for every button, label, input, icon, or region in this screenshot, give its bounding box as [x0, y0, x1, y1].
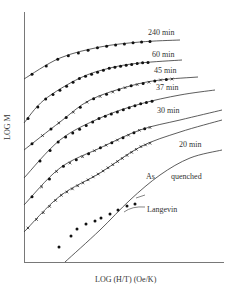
label-37-min: 37 min: [156, 83, 178, 92]
data-point: [109, 213, 112, 216]
data-point: [99, 146, 102, 149]
data-point: [44, 97, 47, 100]
x-axis-label: LOG (H/T) (Oe/K): [95, 275, 156, 284]
data-point: [116, 110, 119, 113]
label-langevin: Langevin: [147, 205, 177, 214]
data-point: [133, 104, 136, 107]
data-point: [78, 128, 81, 131]
label-quenched: quenched: [171, 172, 202, 181]
data-point: [67, 54, 70, 57]
data-point: [165, 78, 168, 81]
data-point: [58, 246, 61, 249]
data-point: [100, 217, 103, 220]
data-point: [72, 81, 75, 84]
data-point: [143, 127, 146, 130]
data-point: [114, 44, 117, 47]
data-point: [134, 203, 137, 206]
data-point-cross: [41, 134, 44, 137]
data-point: [125, 64, 128, 67]
data-point: [31, 142, 34, 145]
data-point: [76, 228, 79, 231]
curve-37-min: [24, 90, 215, 178]
data-point: [90, 73, 93, 76]
data-point: [31, 73, 34, 76]
data-point: [136, 62, 139, 65]
data-point: [39, 160, 42, 163]
data-point: [102, 69, 105, 72]
data-point: [96, 46, 99, 49]
data-point: [130, 63, 133, 66]
curves: [24, 40, 222, 262]
data-point: [31, 195, 34, 198]
data-point: [110, 113, 113, 116]
y-axis-label: LOG M: [3, 114, 12, 140]
data-point: [104, 115, 107, 118]
data-point: [45, 65, 48, 68]
data-point: [128, 106, 131, 109]
data-point: [62, 165, 65, 168]
data-point: [139, 102, 142, 105]
data-point: [151, 100, 154, 103]
data-point-cross: [97, 173, 100, 176]
data-point: [96, 71, 99, 74]
data-point: [58, 89, 61, 92]
data-point: [132, 131, 135, 134]
curve-langevin: [65, 150, 222, 262]
data-point: [119, 65, 122, 68]
data-point: [126, 205, 129, 208]
data-point: [75, 158, 78, 161]
data-point: [105, 45, 108, 48]
data-point: [49, 149, 52, 152]
label-240-min: 240 min: [148, 28, 174, 37]
data-point: [122, 108, 125, 111]
data-point: [56, 58, 59, 61]
data-point: [147, 61, 150, 64]
data-point: [140, 40, 143, 43]
data-markers: [27, 40, 174, 249]
data-point: [118, 88, 121, 91]
label-as: As: [146, 172, 155, 181]
label-30-min: 30 min: [157, 106, 179, 115]
data-point: [108, 67, 111, 70]
data-point: [142, 82, 145, 85]
data-point: [117, 209, 120, 212]
data-point: [71, 131, 74, 134]
data-point: [85, 124, 88, 127]
data-point: [79, 106, 82, 109]
data-point: [149, 40, 152, 43]
data-point-cross: [102, 170, 105, 173]
data-point: [94, 220, 97, 223]
data-point: [70, 235, 73, 238]
data-point: [65, 116, 68, 119]
label-60-min: 60 min: [152, 50, 174, 59]
data-point: [92, 97, 95, 100]
data-point: [110, 141, 113, 144]
data-point-cross: [92, 176, 95, 179]
data-point-cross: [27, 227, 30, 230]
data-point: [77, 51, 80, 54]
as-quenched-callout: [136, 195, 145, 198]
data-point-cross: [57, 122, 60, 125]
data-point: [87, 152, 90, 155]
data-point: [132, 41, 135, 44]
data-point: [91, 121, 94, 124]
data-point-cross: [107, 166, 110, 169]
data-point: [51, 93, 54, 96]
data-point: [36, 106, 39, 109]
data-point: [141, 61, 144, 64]
data-point: [84, 75, 87, 78]
data-point: [27, 117, 30, 120]
data-point: [78, 77, 81, 80]
data-point: [85, 223, 88, 226]
data-point: [64, 135, 67, 138]
data-point: [87, 49, 90, 52]
data-point: [65, 85, 68, 88]
data-point: [122, 136, 125, 139]
data-point: [48, 177, 51, 180]
langevin-callout: [124, 207, 145, 212]
label-20-min: 20 min: [179, 140, 201, 149]
label-45-min: 45 min: [154, 66, 176, 75]
data-point: [113, 66, 116, 69]
data-point: [105, 93, 108, 96]
data-point: [130, 84, 133, 87]
